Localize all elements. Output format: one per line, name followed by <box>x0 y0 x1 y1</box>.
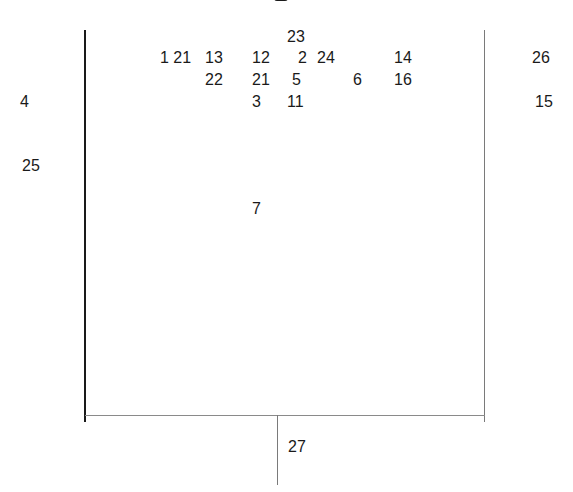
node-label-23: 23 <box>287 28 305 46</box>
node-label-2: 2 <box>298 49 307 67</box>
node-label-16: 16 <box>394 71 412 89</box>
node-label-15: 15 <box>535 93 553 111</box>
node-label-24: 24 <box>317 49 335 67</box>
node-label-3: 3 <box>252 93 261 111</box>
root-label-27: 27 <box>288 438 306 456</box>
left-branch-line <box>84 30 86 422</box>
node-label-26: 26 <box>532 49 550 67</box>
diagram-canvas: 23 1 21 13 12 2 24 14 26 22 21 5 6 16 4 … <box>0 0 573 492</box>
root-stem-line <box>277 415 278 485</box>
node-label-21: 21 <box>252 71 270 89</box>
node-label-1-21: 1 21 <box>160 49 191 67</box>
horizontal-join-line <box>85 415 485 416</box>
node-label-6: 6 <box>353 71 362 89</box>
right-branch-line <box>484 30 485 422</box>
cropped-title-fragment <box>274 0 288 1</box>
node-label-4: 4 <box>20 93 29 111</box>
node-label-11: 11 <box>287 93 304 111</box>
node-label-12: 12 <box>252 49 270 67</box>
node-label-13: 13 <box>205 49 223 67</box>
node-label-14: 14 <box>394 49 412 67</box>
node-label-22: 22 <box>205 71 223 89</box>
node-label-5: 5 <box>292 71 301 89</box>
node-label-7: 7 <box>252 200 261 218</box>
node-label-25: 25 <box>22 157 40 175</box>
